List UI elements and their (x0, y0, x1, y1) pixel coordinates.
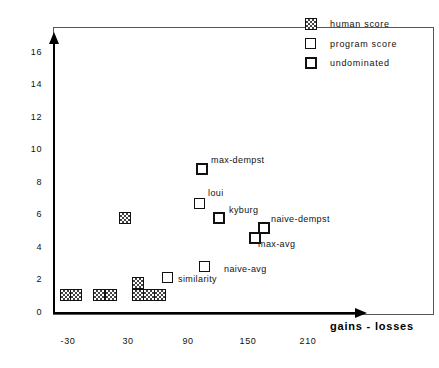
data-point-human-score[interactable] (154, 289, 166, 301)
data-point-label-naive-dempst: naive-dempst (271, 214, 330, 224)
data-point-label-loui: loui (208, 188, 224, 198)
data-point-label-max-dempst: max-dempst (211, 155, 265, 165)
x-tick-label-90: 90 (174, 336, 202, 346)
y-tick-label-6: 6 (22, 209, 42, 219)
x-axis-title: gains - losses (330, 320, 414, 332)
data-point-similarity[interactable] (162, 272, 173, 283)
data-point-human-score[interactable] (93, 289, 105, 301)
legend-label-program-score: program score (330, 39, 397, 49)
data-point-label-max-avg: max-avg (258, 239, 295, 249)
data-point-human-score[interactable] (132, 277, 144, 289)
x-axis-arrow-icon (355, 308, 367, 318)
legend-swatch-program-score (305, 38, 316, 49)
y-axis-arrow-icon (49, 32, 59, 44)
y-axis-line (53, 44, 55, 314)
data-point-loui[interactable] (194, 198, 205, 209)
data-point-label-similarity: similarity (178, 274, 217, 284)
x-tick-label-minus30: -30 (54, 336, 82, 346)
data-point-kyburg[interactable] (213, 212, 225, 224)
scatter-plot-figure: 0 2 4 6 8 10 12 14 16 -30 30 90 150 210 … (0, 0, 439, 368)
data-point-label-naive-avg: naive-avg (224, 264, 267, 274)
data-point-naive-avg[interactable] (199, 261, 210, 272)
y-tick-label-16: 16 (22, 47, 42, 57)
x-tick-label-150: 150 (234, 336, 262, 346)
legend-label-undominated: undominated (330, 58, 390, 68)
data-point-naive-dempst[interactable] (258, 222, 270, 234)
y-tick-label-14: 14 (22, 79, 42, 89)
y-tick-label-2: 2 (22, 274, 42, 284)
y-tick-label-4: 4 (22, 242, 42, 252)
data-point-human-score[interactable] (119, 212, 131, 224)
legend-item-program-score[interactable]: program score (305, 38, 397, 49)
legend-swatch-undominated (305, 57, 317, 69)
x-axis-line (53, 312, 355, 314)
y-tick-label-0: 0 (22, 307, 42, 317)
x-tick-label-210: 210 (294, 336, 322, 346)
data-point-max-dempst[interactable] (196, 163, 208, 175)
legend-item-human-score[interactable]: human score (305, 18, 390, 30)
y-tick-label-8: 8 (22, 177, 42, 187)
legend-label-human-score: human score (330, 19, 390, 29)
data-point-label-kyburg: kyburg (229, 205, 258, 215)
legend-swatch-human-score (305, 18, 317, 30)
legend: human score program score undominated (305, 18, 435, 70)
data-point-human-score[interactable] (105, 289, 117, 301)
x-tick-label-30: 30 (114, 336, 142, 346)
y-tick-label-10: 10 (22, 144, 42, 154)
legend-item-undominated[interactable]: undominated (305, 57, 390, 69)
data-point-human-score[interactable] (70, 289, 82, 301)
y-tick-label-12: 12 (22, 112, 42, 122)
